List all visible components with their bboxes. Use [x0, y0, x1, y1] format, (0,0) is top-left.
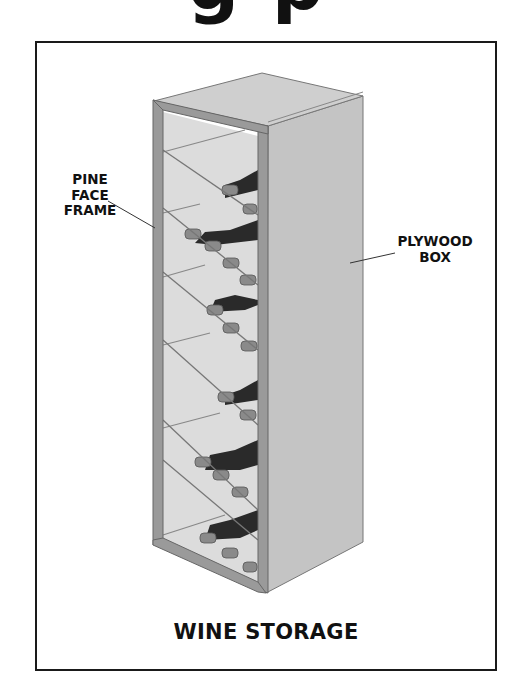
label-line: PLYWOOD: [395, 234, 475, 250]
label-line: FACE: [55, 188, 125, 204]
plywood-box-label: PLYWOOD BOX: [395, 234, 475, 265]
plywood-side-panel: [266, 96, 363, 593]
label-line: FRAME: [55, 203, 125, 219]
label-line: BOX: [395, 250, 475, 266]
face-frame-left-stile: [153, 100, 163, 545]
face-frame-right-stile: [258, 126, 268, 593]
pine-face-frame-label: PINE FACE FRAME: [55, 172, 125, 219]
wine-cabinet-illustration: [0, 0, 515, 695]
figure-caption: WINE STORAGE: [35, 620, 497, 644]
label-line: PINE: [55, 172, 125, 188]
